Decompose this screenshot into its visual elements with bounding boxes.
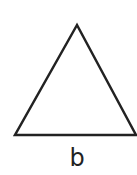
triangle (15, 25, 136, 135)
base-label: b (69, 144, 84, 172)
triangle-diagram: b (0, 0, 137, 175)
